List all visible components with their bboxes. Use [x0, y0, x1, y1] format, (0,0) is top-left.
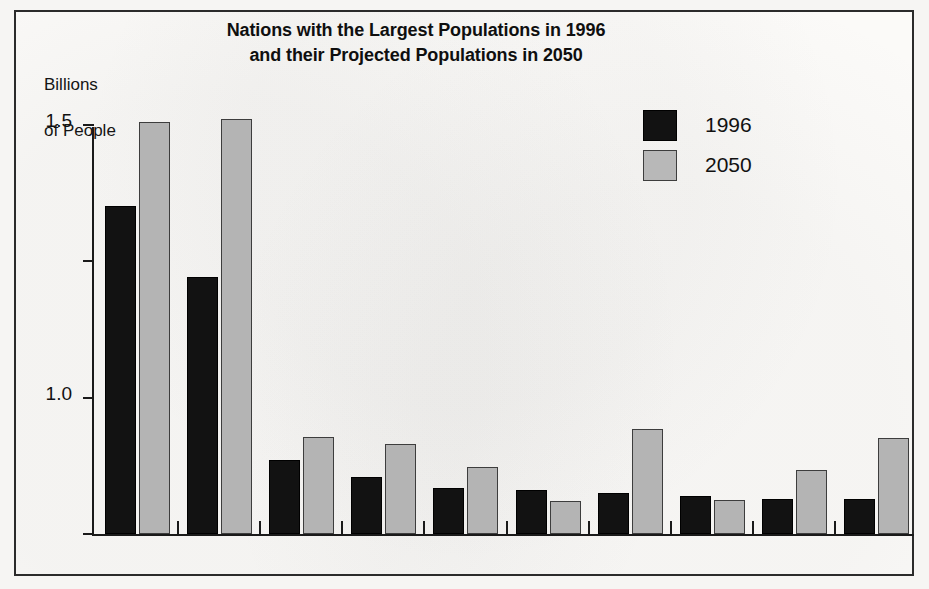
chart-figure: Nations with the Largest Populations in … — [0, 0, 929, 589]
bar-2050-usa — [303, 437, 334, 534]
y-tick-mark: 0.5 — [83, 397, 94, 399]
plot-area: 0.00.51.01.5 ChinaIndiaUSAIndonesiaBrazi… — [92, 127, 914, 536]
x-group-tick — [506, 521, 508, 534]
y-tick-mark: 0.0 — [83, 533, 94, 535]
x-group-tick — [341, 521, 343, 534]
y-tick-label: 1.5 — [46, 110, 72, 132]
bar-2050-pakistan — [632, 429, 663, 534]
bar-1996-japan — [680, 496, 711, 534]
y-tick-mark: 1.5 — [83, 124, 94, 126]
bar-2050-indonesia — [385, 444, 416, 534]
bar-2050-nigeria — [878, 438, 909, 534]
x-group-tick — [259, 521, 261, 534]
bar-1996-russia — [516, 490, 547, 534]
bar-2050-china — [139, 122, 170, 534]
x-group-tick — [834, 521, 836, 534]
chart-frame: Nations with the Largest Populations in … — [14, 10, 914, 576]
x-group-tick — [752, 521, 754, 534]
y-tick-label: 1.0 — [46, 383, 72, 405]
bar-1996-india — [187, 277, 218, 534]
bar-1996-usa — [269, 460, 300, 534]
chart-title: Nations with the Largest Populations in … — [136, 18, 696, 68]
bar-1996-china — [105, 206, 136, 534]
bar-2050-japan — [714, 500, 745, 534]
bar-1996-indonesia — [351, 477, 382, 534]
x-group-tick — [588, 521, 590, 534]
bar-1996-brazil — [433, 488, 464, 534]
x-group-tick — [423, 521, 425, 534]
y-tick-mark: 1.0 — [83, 260, 94, 262]
x-group-tick — [670, 521, 672, 534]
bar-1996-bangladesh — [762, 499, 793, 534]
y-axis-line — [92, 127, 94, 536]
bar-1996-pakistan — [598, 493, 629, 534]
bar-2050-india — [221, 119, 252, 534]
bar-2050-russia — [550, 501, 581, 534]
y-axis-label-line-1: Billions — [44, 73, 116, 96]
chart-title-line-1: Nations with the Largest Populations in … — [136, 18, 696, 43]
bar-1996-nigeria — [844, 499, 875, 534]
x-group-tick — [177, 521, 179, 534]
x-axis-line — [92, 534, 914, 536]
chart-title-line-2: and their Projected Populations in 2050 — [136, 43, 696, 68]
bar-2050-bangladesh — [796, 470, 827, 534]
bar-2050-brazil — [467, 467, 498, 534]
